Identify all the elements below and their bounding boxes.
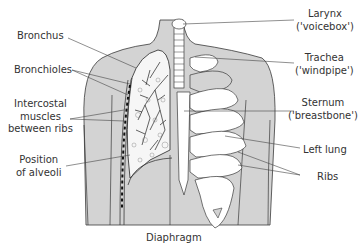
- label-bronchioles: Bronchioles: [14, 64, 72, 77]
- label-larynx: Larynx ('voicebox'): [296, 8, 354, 33]
- trachea: [174, 26, 184, 88]
- label-trachea: Trachea ('windpipe'): [295, 52, 354, 77]
- label-ribs: Ribs: [317, 171, 338, 184]
- label-alveoli: Position of alveoli: [16, 154, 61, 179]
- label-left-lung: Left lung: [303, 144, 347, 157]
- label-sternum: Sternum ('breastbone'): [288, 97, 358, 122]
- label-bronchus: Bronchus: [17, 30, 64, 43]
- label-intercostal-muscles: Intercostal muscles between ribs: [8, 98, 73, 136]
- sternum: [177, 92, 190, 195]
- label-diaphragm: Diaphragm: [146, 232, 202, 245]
